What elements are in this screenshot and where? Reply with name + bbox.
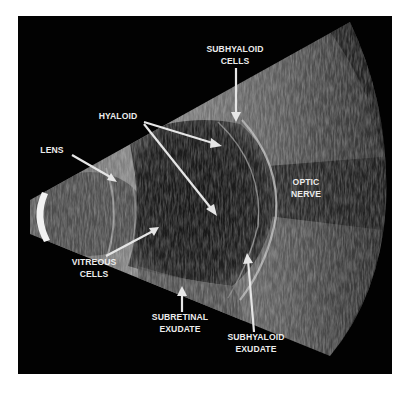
label-line: LENS	[40, 144, 63, 156]
label-line: EXUDATE	[227, 343, 284, 355]
label-line: CELLS	[206, 55, 263, 67]
label-optic-nerve: OPTIC NERVE	[291, 176, 321, 200]
label-line: SUBHYALOID	[206, 43, 263, 55]
label-line: NERVE	[291, 188, 321, 200]
label-line: HYALOID	[99, 110, 138, 122]
label-line: SUBHYALOID	[227, 331, 284, 343]
label-vitreous-cells: VITREOUS CELLS	[72, 256, 117, 280]
label-hyaloid: HYALOID	[99, 110, 138, 122]
label-line: SUBRETINAL	[152, 311, 208, 323]
label-line: OPTIC	[291, 176, 321, 188]
label-subretinal-exudate: SUBRETINAL EXUDATE	[152, 311, 208, 335]
label-subhyaloid-exudate: SUBHYALOID EXUDATE	[227, 331, 284, 355]
label-line: VITREOUS	[72, 256, 117, 268]
label-lens: LENS	[40, 144, 63, 156]
label-subhyaloid-cells: SUBHYALOID CELLS	[206, 43, 263, 67]
label-line: EXUDATE	[152, 323, 208, 335]
label-line: CELLS	[72, 268, 117, 280]
